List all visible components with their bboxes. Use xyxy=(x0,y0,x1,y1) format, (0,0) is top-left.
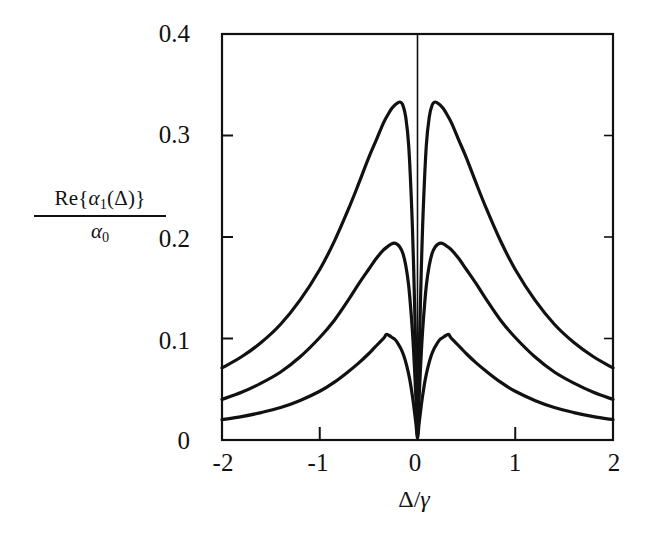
figure-container: Re{α1(Δ)} α0 0.4 0.3 0.2 0.1 0 -2 -1 0 1… xyxy=(0,0,651,533)
x-tick-label-2: 2 xyxy=(589,450,639,475)
y-tick-label-0.3: 0.3 xyxy=(126,122,190,147)
x-tick-label-1: 1 xyxy=(490,450,540,475)
x-axis-label: Δ/γ xyxy=(364,487,464,511)
y-tick-label-0: 0 xyxy=(126,428,190,453)
x-tick-label-0: 0 xyxy=(390,450,440,475)
y-tick-label-0.4: 0.4 xyxy=(126,21,190,46)
y-axis-label-numerator: Re{α1(Δ)} xyxy=(26,188,174,215)
y-tick-label-0.1: 0.1 xyxy=(126,328,190,353)
x-tick-label--2: -2 xyxy=(198,450,248,475)
y-tick-label-0.2: 0.2 xyxy=(126,226,190,251)
x-tick-label--1: -1 xyxy=(293,450,343,475)
